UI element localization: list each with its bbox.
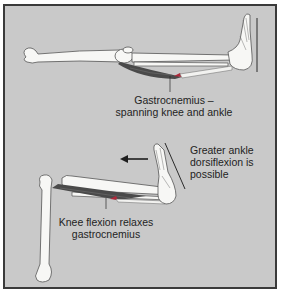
gastrocnemius-label-line2: spanning knee and ankle — [112, 106, 236, 118]
knee-flexion-label: Knee flexion relaxes gastrocnemius — [50, 216, 162, 240]
ankle-label-line2: dorsiflexion is — [190, 156, 254, 168]
foot-bones-top — [228, 14, 252, 70]
patella-top — [123, 47, 133, 53]
ankle-label-line3: possible — [190, 168, 254, 180]
straight-leg — [24, 14, 257, 92]
flexed-leg — [36, 143, 186, 282]
knee-label-line1: Knee flexion relaxes — [50, 216, 162, 228]
arrow-left-icon — [120, 155, 148, 163]
ankle-dorsiflexion-label: Greater ankle dorsiflexion is possible — [190, 144, 254, 180]
foot-bones-bottom — [154, 144, 176, 204]
femur-bone-top — [24, 47, 133, 63]
gastrocnemius-label-line1: Gastrocnemius – — [112, 94, 236, 106]
gastrocnemius-label: Gastrocnemius – spanning knee and ankle — [112, 94, 236, 118]
knee-label-line2: gastrocnemius — [50, 228, 162, 240]
ankle-label-line1: Greater ankle — [190, 144, 254, 156]
achilles-tendon-top — [180, 66, 232, 78]
lower-leg-bones-top — [132, 53, 234, 66]
